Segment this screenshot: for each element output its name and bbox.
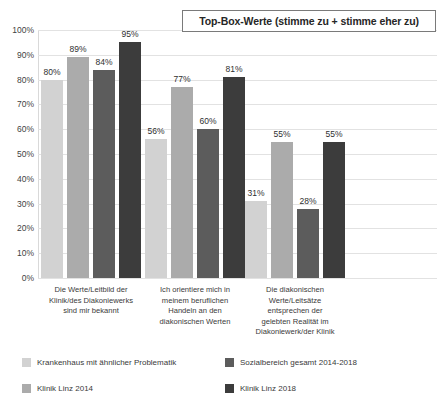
bar: [223, 77, 245, 278]
gridline: [38, 55, 437, 56]
legend-swatch-icon: [225, 358, 234, 367]
bar-value-label: 77%: [173, 74, 190, 84]
legend-item[interactable]: Klinik Linz 2014: [22, 384, 93, 393]
y-axis-tick-label: 10%: [2, 248, 34, 258]
legend-label: Klinik Linz 2014: [37, 384, 93, 393]
legend-label: Krankenhaus mit ähnlicher Problematik: [37, 358, 176, 367]
bar: [197, 129, 219, 278]
bar-chart: Top-Box-Werte (stimme zu + stimme eher z…: [0, 0, 448, 409]
y-axis-tick-label: 60%: [2, 124, 34, 134]
category-label-line: gelebten Realität im: [220, 317, 370, 328]
chart-title: Top-Box-Werte (stimme zu + stimme eher z…: [199, 15, 419, 27]
chart-legend: Krankenhaus mit ähnlicher ProblematikSoz…: [0, 358, 448, 406]
bar: [323, 142, 345, 278]
bar: [297, 209, 319, 278]
bar: [171, 87, 193, 278]
bar-value-label: 28%: [299, 196, 316, 206]
y-axis-tick-label: 90%: [2, 50, 34, 60]
legend-label: Sozialbereich gesamt 2014-2018: [240, 358, 357, 367]
category-label-line: Diakoniewerk/der Klinik: [220, 327, 370, 338]
bar-value-label: 84%: [95, 57, 112, 67]
legend-label: Klinik Linz 2018: [240, 384, 296, 393]
bar: [41, 80, 63, 278]
bar-value-label: 31%: [247, 188, 264, 198]
category-label-line: entsprechen der: [220, 306, 370, 317]
bar: [119, 42, 141, 278]
bar-value-label: 95%: [121, 29, 138, 39]
legend-swatch-icon: [22, 384, 31, 393]
y-axis-tick-label: 40%: [2, 174, 34, 184]
chart-title-box: Top-Box-Werte (stimme zu + stimme eher z…: [182, 10, 436, 32]
bar: [67, 57, 89, 278]
y-axis-tick-label: 70%: [2, 99, 34, 109]
bar-value-label: 60%: [199, 116, 216, 126]
bar-value-label: 55%: [273, 129, 290, 139]
bar-value-label: 89%: [69, 44, 86, 54]
y-axis-labels: 100%90%80%70%60%50%40%30%20%10%0%: [0, 30, 34, 278]
legend-item[interactable]: Sozialbereich gesamt 2014-2018: [225, 358, 357, 367]
bar: [93, 70, 115, 278]
legend-swatch-icon: [225, 384, 234, 393]
bar-value-label: 55%: [325, 129, 342, 139]
bar-value-label: 80%: [43, 67, 60, 77]
bar-value-label: 56%: [147, 126, 164, 136]
y-axis-tick-label: 30%: [2, 199, 34, 209]
x-axis-category-label: Die diakonischenWerte/Leitsätzeentsprech…: [220, 285, 370, 338]
category-label-line: Die diakonischen: [220, 285, 370, 296]
legend-item[interactable]: Klinik Linz 2018: [225, 384, 296, 393]
y-axis-tick-label: 0%: [2, 273, 34, 283]
plot-area: 80%89%84%95%56%77%60%81%31%55%28%55%: [38, 30, 437, 278]
bar: [145, 139, 167, 278]
y-axis-tick-label: 100%: [2, 25, 34, 35]
gridline: [38, 278, 437, 279]
bar-value-label: 81%: [225, 64, 242, 74]
legend-swatch-icon: [22, 358, 31, 367]
y-axis-tick-label: 20%: [2, 223, 34, 233]
bar: [271, 142, 293, 278]
y-axis-tick-label: 50%: [2, 149, 34, 159]
legend-item[interactable]: Krankenhaus mit ähnlicher Problematik: [22, 358, 176, 367]
category-label-line: Werte/Leitsätze: [220, 296, 370, 307]
y-axis-tick-label: 80%: [2, 75, 34, 85]
bar: [245, 201, 267, 278]
